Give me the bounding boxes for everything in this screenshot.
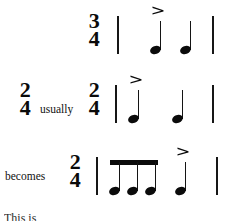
note-row3-4 <box>175 163 188 195</box>
barline-row2-open <box>115 85 117 123</box>
accent-mark-row2-1 <box>130 75 142 84</box>
note-row2-2 <box>172 91 185 123</box>
lead-time-signature-row2: 2 4 <box>13 78 37 120</box>
barline-row2-close <box>212 85 214 123</box>
note-row3-1 <box>109 163 122 195</box>
note-row3-3 <box>145 163 158 195</box>
time-signature-row1: 3 4 <box>82 9 106 51</box>
barline-row3-close <box>216 157 218 195</box>
time-signature-row2: 2 4 <box>82 78 106 120</box>
note-row1-2 <box>180 22 193 54</box>
barline-row1-close <box>212 16 214 54</box>
barline-row3-open <box>96 157 98 195</box>
accent-mark-row1-1 <box>152 6 164 15</box>
accent-mark-row3-4 <box>177 147 189 156</box>
caption-cutoff-line: This is <box>4 211 204 221</box>
barline-row1-open <box>117 16 119 54</box>
time-signature-denominator: 4 <box>89 99 100 117</box>
time-signature-denominator: 4 <box>20 99 31 117</box>
time-signature-row3: 2 4 <box>63 150 87 192</box>
time-signature-denominator: 4 <box>89 30 100 48</box>
note-row3-2 <box>127 163 140 195</box>
label-usually: usually <box>40 103 73 115</box>
note-row1-1 <box>150 22 163 54</box>
music-notation-figure: 3 4 2 4 usually 2 4 <box>0 0 235 221</box>
time-signature-denominator: 4 <box>70 171 81 189</box>
label-becomes: becomes <box>5 170 45 182</box>
note-row2-1 <box>128 91 141 123</box>
